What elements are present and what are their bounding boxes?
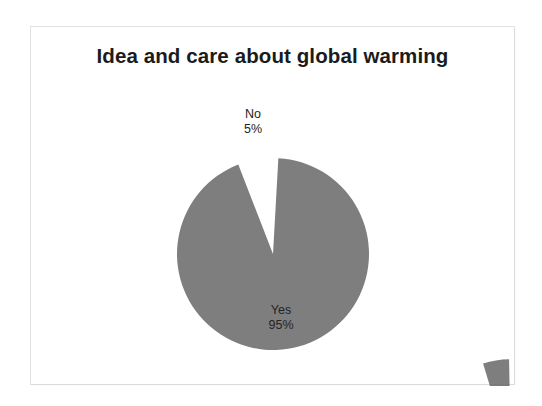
pie-slice-yes[interactable] bbox=[177, 158, 369, 350]
pie-chart-plot-area: No 5% Yes 95% bbox=[31, 27, 516, 386]
pie-chart-svg bbox=[31, 27, 516, 386]
slide-frame: Idea and care about global warming No 5%… bbox=[30, 26, 515, 385]
pie-slice-no[interactable] bbox=[483, 359, 511, 386]
